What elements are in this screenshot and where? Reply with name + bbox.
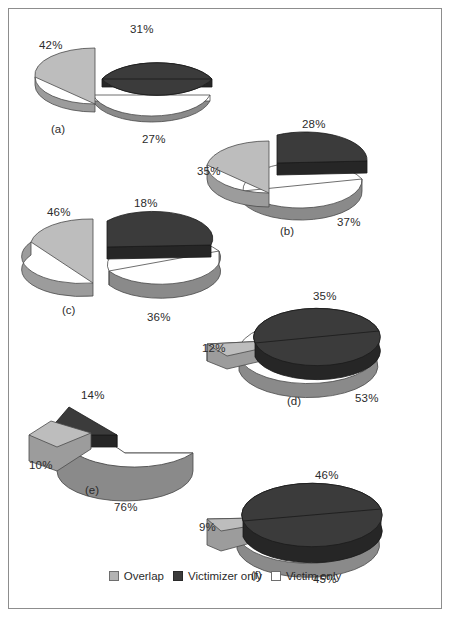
legend-label-victim: Victim only — [286, 570, 341, 582]
pie-chart-a: 42% 31% 27% (a) — [27, 23, 237, 148]
pie-c-label-victimizer: 18% — [134, 197, 158, 209]
pie-e-label-overlap: 10% — [29, 459, 53, 471]
pie-b-label-victim: 37% — [337, 216, 361, 228]
pie-c-label-overlap: 46% — [47, 206, 71, 218]
overlap-swatch-icon — [109, 571, 119, 581]
slice-d-victimizer — [254, 308, 381, 379]
pie-c-caption: (c) — [62, 304, 75, 316]
pie-d-caption: (d) — [287, 395, 301, 407]
pie-f-label-overlap: 9% — [199, 521, 216, 533]
victimizer-swatch-icon — [173, 571, 183, 581]
pie-a-caption: (a) — [51, 123, 65, 135]
pie-f-label-victimizer: 46% — [315, 469, 339, 481]
legend: Overlap Victimizer only Victim only — [9, 570, 441, 582]
pie-c-label-victim: 36% — [147, 311, 171, 323]
slice-c-overlap — [22, 219, 93, 297]
pie-d-label-victimizer: 35% — [313, 290, 337, 302]
pie-a-label-overlap: 42% — [39, 39, 63, 51]
legend-item-victim: Victim only — [271, 570, 341, 582]
pie-e-label-victim: 76% — [114, 501, 138, 513]
slice-a-overlap — [35, 48, 95, 112]
victim-swatch-icon — [271, 571, 281, 581]
pie-e-label-victimizer: 14% — [81, 389, 105, 401]
legend-item-overlap: Overlap — [109, 570, 164, 582]
pie-b-caption: (b) — [280, 225, 294, 237]
legend-item-victimizer: Victimizer only — [173, 570, 262, 582]
slice-b-victimizer — [277, 132, 367, 175]
legend-label-overlap: Overlap — [124, 570, 164, 582]
slice-c-victimizer — [107, 211, 213, 259]
pie-d-label-victim: 53% — [355, 392, 379, 404]
slice-a-victim — [93, 95, 210, 122]
slice-f-victimizer — [242, 483, 383, 562]
pie-b-label-victimizer: 28% — [302, 118, 326, 130]
pie-a-label-victimizer: 31% — [130, 23, 154, 35]
figure-frame: 42% 31% 27% (a) 35% 28% 37% — [8, 8, 442, 609]
pie-e-caption: (e) — [85, 484, 99, 496]
pie-b-label-overlap: 35% — [197, 165, 221, 177]
legend-label-victimizer: Victimizer only — [188, 570, 262, 582]
pie-d-label-overlap: 12% — [202, 342, 226, 354]
pie-a-label-victim: 27% — [142, 133, 166, 145]
slice-a-victimizer — [102, 63, 212, 95]
